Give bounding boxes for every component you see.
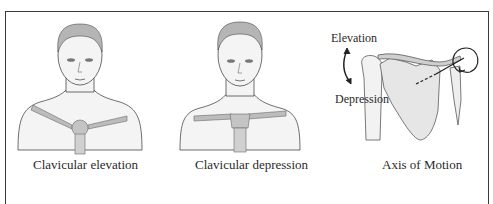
- label-depression: Depression: [335, 92, 389, 107]
- caption-clavicular-depression: Clavicular depression: [195, 157, 308, 173]
- elevation-depression-arrow-icon: [344, 50, 350, 82]
- figure-axis-illustration: [320, 0, 493, 160]
- scapula: [380, 58, 440, 140]
- sternum: [75, 134, 85, 154]
- manubrium: [230, 114, 250, 128]
- right-eye: [245, 59, 253, 63]
- figure-depression-illustration: [160, 0, 325, 160]
- label-elevation: Elevation: [331, 31, 377, 46]
- arrowhead-up-icon: [344, 48, 350, 54]
- right-eye: [85, 58, 93, 62]
- left-eye: [67, 58, 75, 62]
- caption-axis-of-motion: Axis of Motion: [382, 157, 462, 173]
- sternum: [450, 66, 461, 125]
- figure-elevation-illustration: [0, 0, 165, 160]
- sternum: [234, 128, 246, 152]
- manubrium: [72, 120, 88, 136]
- caption-clavicular-elevation: Clavicular elevation: [33, 157, 138, 173]
- left-eye: [227, 59, 235, 63]
